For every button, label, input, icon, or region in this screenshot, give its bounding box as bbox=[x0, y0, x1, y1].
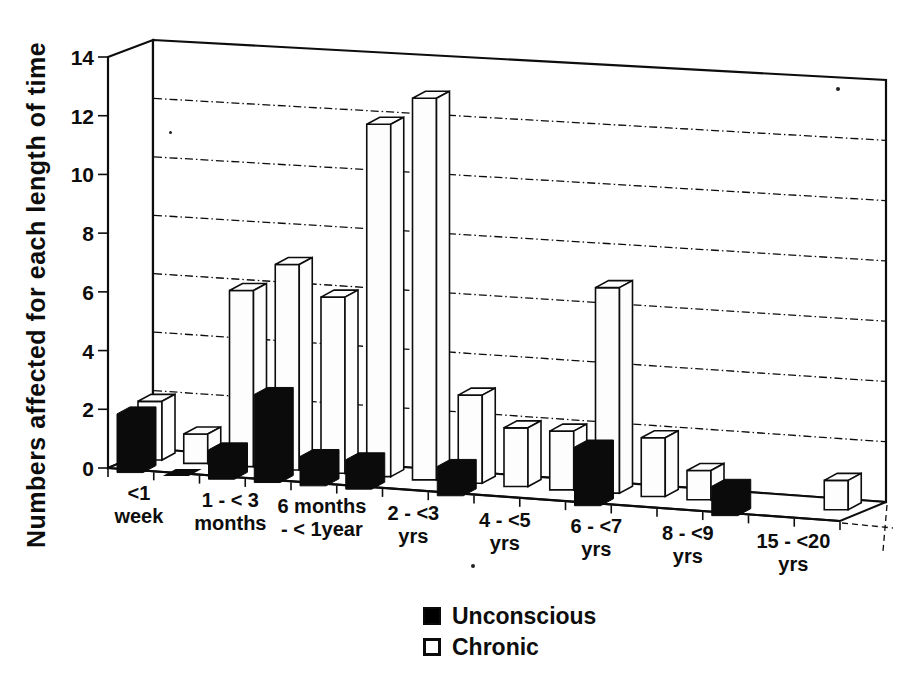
bar-unconscious-4 bbox=[300, 449, 339, 485]
bar-unconscious-5 bbox=[346, 453, 385, 489]
x-category-label: 4 - <5 bbox=[479, 509, 531, 531]
bar-chronic-6 bbox=[413, 91, 450, 480]
legend: Unconscious Chronic bbox=[423, 606, 596, 668]
y-tick-label: 8 bbox=[82, 222, 94, 245]
y-tick-label: 10 bbox=[71, 163, 94, 186]
x-category-label: 15 - <20 bbox=[756, 530, 830, 552]
legend-label: Unconscious bbox=[452, 603, 596, 630]
x-category-label: 6 - <7 bbox=[571, 515, 623, 537]
x-category-label: - < 1year bbox=[281, 518, 363, 540]
x-category-label: yrs bbox=[581, 538, 611, 560]
x-category-label: week bbox=[113, 505, 164, 527]
y-tick-label: 2 bbox=[82, 398, 94, 421]
x-category-label: yrs bbox=[490, 532, 520, 554]
y-tick-label: 4 bbox=[82, 340, 94, 363]
bar-chronic-5 bbox=[367, 117, 404, 476]
x-category-label: 1 - < 3 bbox=[202, 489, 259, 511]
bar-unconscious-10 bbox=[575, 440, 614, 506]
bar-unconscious-2 bbox=[209, 443, 248, 479]
y-tick-label: 12 bbox=[71, 105, 94, 128]
x-category-label: months bbox=[194, 512, 266, 534]
bar-chronic-8 bbox=[504, 421, 541, 487]
figure: 02468101214<1week1 - < 3months6 months- … bbox=[0, 0, 914, 699]
scan-speck bbox=[169, 131, 172, 134]
chronic-swatch-icon bbox=[423, 638, 441, 656]
scan-speck bbox=[471, 564, 475, 568]
legend-item-chronic: Chronic bbox=[423, 637, 596, 657]
y-tick-label: 14 bbox=[71, 46, 95, 69]
x-category-label: 2 - <3 bbox=[388, 502, 440, 524]
x-category-label: 6 months bbox=[277, 495, 366, 517]
bar-chronic-11 bbox=[641, 431, 678, 497]
y-axis-title: Numbers affected for each length of time bbox=[22, 42, 51, 548]
bar-chronic-15 bbox=[824, 473, 861, 509]
y-tick-label: 0 bbox=[82, 457, 94, 480]
y-tick-label: 6 bbox=[82, 281, 94, 304]
x-category-label: 8 - <9 bbox=[662, 522, 714, 544]
legend-item-unconscious: Unconscious bbox=[423, 606, 596, 626]
bar-chronic-4 bbox=[321, 290, 358, 473]
legend-label: Chronic bbox=[452, 634, 539, 661]
chart-canvas: 02468101214<1week1 - < 3months6 months- … bbox=[0, 0, 914, 699]
x-category-label: yrs bbox=[673, 545, 703, 567]
bar-unconscious-0 bbox=[117, 407, 156, 473]
x-category-label: yrs bbox=[778, 553, 808, 575]
x-category-label: <1 bbox=[127, 482, 150, 504]
x-category-label: yrs bbox=[398, 525, 428, 547]
bar-unconscious-7 bbox=[437, 459, 476, 495]
bar-unconscious-13 bbox=[712, 479, 751, 515]
bar-unconscious-3 bbox=[254, 387, 293, 482]
plot-area: 02468101214<1week1 - < 3months6 months- … bbox=[0, 0, 914, 699]
scan-speck bbox=[836, 87, 840, 91]
unconscious-swatch-icon bbox=[423, 607, 441, 625]
